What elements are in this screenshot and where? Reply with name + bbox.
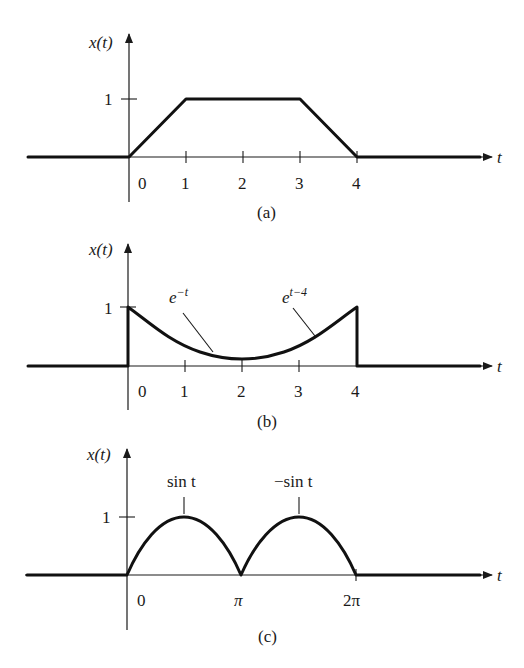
annotation-e-t-minus-4: et−4 bbox=[282, 285, 307, 307]
x-tick-label: 0 bbox=[138, 174, 147, 193]
y-axis-label: x(t) bbox=[88, 240, 113, 259]
x-tick-label: 0 bbox=[138, 382, 147, 401]
x-axis-label: t bbox=[497, 566, 503, 585]
figure-canvas: x(t) t 1 0 1 2 3 4 (a) x(t) t 1 0 1 2 3 … bbox=[0, 0, 524, 668]
x-tick-label: 2 bbox=[237, 382, 246, 401]
annotation-sin-t: sin t bbox=[167, 472, 196, 491]
y-tick-label: 1 bbox=[104, 90, 113, 109]
caption-b: (b) bbox=[257, 412, 277, 431]
x-tick-label: 3 bbox=[294, 382, 303, 401]
caption-a: (a) bbox=[257, 203, 276, 222]
x-tick-label: 3 bbox=[295, 174, 304, 193]
signal-exponential bbox=[28, 307, 480, 366]
x-tick-label: 0 bbox=[137, 591, 146, 610]
y-axis-label: x(t) bbox=[88, 33, 113, 52]
plot-b: x(t) t 1 0 1 2 3 4 e−t et−4 (b) bbox=[27, 240, 503, 431]
x-tick-label: 2π bbox=[343, 591, 361, 610]
x-tick-label: 4 bbox=[352, 174, 361, 193]
y-axis-label: x(t) bbox=[86, 445, 111, 464]
annotation-leader-e-t-minus-4 bbox=[293, 308, 315, 336]
signal-trapezoid bbox=[28, 99, 480, 157]
caption-c: (c) bbox=[258, 627, 277, 646]
y-tick-label: 1 bbox=[104, 299, 113, 318]
x-tick-label: π bbox=[234, 591, 243, 610]
annotation-minus-sin-t: −sin t bbox=[274, 472, 313, 491]
x-axis-label: t bbox=[497, 357, 503, 376]
annotation-e-minus-t: e−t bbox=[169, 285, 189, 307]
x-tick-label: 1 bbox=[180, 382, 189, 401]
x-tick-label: 4 bbox=[351, 382, 360, 401]
plot-a: x(t) t 1 0 1 2 3 4 (a) bbox=[27, 33, 503, 222]
y-tick-label: 1 bbox=[102, 508, 111, 527]
x-tick-label: 1 bbox=[181, 174, 190, 193]
signal-rectified-sine bbox=[27, 517, 480, 575]
x-tick-label: 2 bbox=[238, 174, 247, 193]
plot-c: x(t) t 1 0 π 2π sin t −sin t (c) bbox=[25, 445, 503, 646]
x-axis-label: t bbox=[497, 148, 503, 167]
